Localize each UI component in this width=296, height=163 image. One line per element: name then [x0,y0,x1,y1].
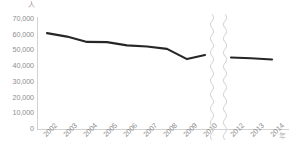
line-chart: 人 70,000 60,000 50,000 40,000 30,000 20,… [0,0,296,163]
x-tick-label: 2010 [202,122,219,139]
x-tick-label: 2009 [182,122,199,139]
x-tick-label: 2007 [142,122,159,139]
series-segment-left [47,33,205,59]
y-tick-label: 30,000 [0,78,34,86]
x-axis-unit-label: 年 [279,131,286,140]
y-tick-label: 20,000 [0,94,34,102]
y-tick-label: 40,000 [0,62,34,70]
y-tick-label: 0 [0,125,34,133]
x-tick-label: 2006 [122,122,139,139]
y-tick-label: 70,000 [0,15,34,23]
series-segment-right [231,58,272,60]
y-tick-label: 60,000 [0,31,34,39]
plot-area: 人 70,000 60,000 50,000 40,000 30,000 20,… [0,0,296,163]
x-tick-label: 2008 [162,122,179,139]
series-layer [0,0,296,163]
y-tick-label: 50,000 [0,46,34,54]
x-tick-label: 2012 [229,122,246,139]
axis-break-wave-right [223,14,226,140]
y-axis-tick-labels: 70,000 60,000 50,000 40,000 30,000 20,00… [0,0,34,163]
x-tick-label: 2003 [62,122,79,139]
y-tick-label: 10,000 [0,109,34,117]
x-tick-label: 2005 [102,122,119,139]
x-tick-label: 2002 [42,122,59,139]
x-tick-label: 2004 [82,122,99,139]
x-tick-label: 2013 [249,122,266,139]
y-axis-line [37,17,38,130]
